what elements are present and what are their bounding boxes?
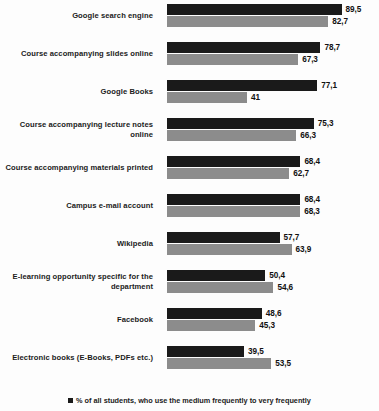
plot-area: Google search engine89,582,7Course accom… xyxy=(0,0,379,390)
category-label: Course accompanying slides online xyxy=(0,40,160,68)
chart-row: Wikipedia57,763,9 xyxy=(0,230,379,268)
bar-series-0 xyxy=(167,194,300,205)
bar-series-1 xyxy=(167,244,292,255)
bar-value-label: 39,5 xyxy=(248,346,264,357)
legend-swatch-icon xyxy=(68,398,73,403)
bar-value-label: 68,4 xyxy=(304,194,320,205)
chart-row: E-learning opportunity specific for the … xyxy=(0,268,379,306)
legend-item-series-0: % of all students, who use the medium fr… xyxy=(68,396,311,405)
bar-series-1 xyxy=(167,358,271,369)
bar-value-label: 66,3 xyxy=(300,130,316,141)
bar-series-1 xyxy=(167,16,328,27)
bar-series-1 xyxy=(167,54,298,65)
legend-label: % of all students, who use the medium fr… xyxy=(76,396,311,405)
chart-row: Google search engine89,582,7 xyxy=(0,2,379,40)
bar-value-label: 78,7 xyxy=(324,42,340,53)
bar-value-label: 67,3 xyxy=(302,54,318,65)
bar-value-label: 75,3 xyxy=(318,118,334,129)
category-label: Course accompanying materials printed xyxy=(0,154,160,182)
category-label: Facebook xyxy=(0,306,160,334)
bar-value-label: 89,5 xyxy=(346,4,362,15)
category-label: E-learning opportunity specific for the … xyxy=(0,268,160,296)
bar-series-1 xyxy=(167,282,273,293)
chart-row: Campus e-mail account68,468,3 xyxy=(0,192,379,230)
bar-series-0 xyxy=(167,4,342,15)
chart-legend: % of all students, who use the medium fr… xyxy=(0,396,379,405)
chart-row: Electronic books (E-Books, PDFs etc.)39,… xyxy=(0,344,379,382)
chart-row: Course accompanying materials printed68,… xyxy=(0,154,379,192)
bar-value-label: 57,7 xyxy=(284,232,300,243)
bar-series-0 xyxy=(167,42,320,53)
bar-value-label: 54,6 xyxy=(277,282,293,293)
bar-value-label: 62,7 xyxy=(293,168,309,179)
bar-value-label: 45,3 xyxy=(259,320,275,331)
category-label: Google Books xyxy=(0,78,160,106)
bar-series-1 xyxy=(167,206,300,217)
bar-value-label: 82,7 xyxy=(332,16,348,27)
bar-series-1 xyxy=(167,130,296,141)
bar-series-0 xyxy=(167,232,280,243)
bar-value-label: 53,5 xyxy=(275,358,291,369)
category-label: Electronic books (E-Books, PDFs etc.) xyxy=(0,344,160,372)
bar-value-label: 48,6 xyxy=(266,308,282,319)
bar-series-0 xyxy=(167,118,314,129)
bar-value-label: 68,4 xyxy=(304,156,320,167)
bar-series-0 xyxy=(167,270,265,281)
bar-chart: Google search engine89,582,7Course accom… xyxy=(0,0,379,411)
chart-row: Course accompanying lecture notes online… xyxy=(0,116,379,154)
bar-series-1 xyxy=(167,92,247,103)
chart-row: Facebook48,645,3 xyxy=(0,306,379,344)
category-label: Wikipedia xyxy=(0,230,160,258)
bar-value-label: 63,9 xyxy=(296,244,312,255)
bar-series-0 xyxy=(167,346,244,357)
chart-row: Google Books77,141 xyxy=(0,78,379,116)
bar-value-label: 41 xyxy=(251,92,260,103)
bar-series-1 xyxy=(167,168,289,179)
chart-row: Course accompanying slides online78,767,… xyxy=(0,40,379,78)
bar-value-label: 77,1 xyxy=(321,80,337,91)
category-label: Course accompanying lecture notes online xyxy=(0,116,160,144)
bar-series-1 xyxy=(167,320,255,331)
category-label: Google search engine xyxy=(0,2,160,30)
bar-value-label: 68,3 xyxy=(304,206,320,217)
bar-series-0 xyxy=(167,156,300,167)
bar-value-label: 50,4 xyxy=(269,270,285,281)
bar-series-0 xyxy=(167,308,262,319)
bar-series-0 xyxy=(167,80,317,91)
category-label: Campus e-mail account xyxy=(0,192,160,220)
